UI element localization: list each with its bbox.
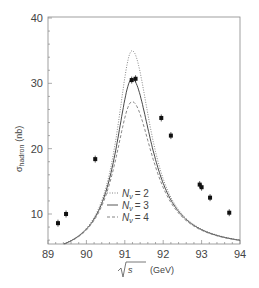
y-axis-ticks [48,18,52,240]
legend: Nν= 2 Nν= 3 Nν= 4 [107,188,149,224]
svg-text:(GeV): (GeV) [150,265,174,275]
x-tick-label: 94 [234,248,246,260]
svg-text:s: s [128,265,133,275]
x-axis-tick-labels: 899091929394 [42,248,246,260]
x-tick-label: 90 [80,248,92,260]
y-tick-label: 20 [31,143,43,155]
legend-label-nv4: Nν= 4 [122,212,149,224]
x-axis-label: s (GeV) [118,262,174,277]
x-axis-ticks [48,240,240,244]
x-tick-label: 92 [157,248,169,260]
y-axis-label: σhadron(nb) [14,126,25,172]
curve-dotted [63,51,240,244]
y-tick-label: 40 [31,12,43,24]
legend-item-nv4: Nν= 4 [107,212,149,224]
y-tick-label: 10 [31,208,43,220]
y-tick-label: 30 [31,77,43,89]
x-tick-label: 91 [119,248,131,260]
svg-text:σhadron(nb): σhadron(nb) [14,126,25,172]
legend-item-nv2: Nν= 2 [107,188,149,200]
legend-label-nv2: Nν= 2 [122,188,149,200]
cross-section-chart: 899091929394 10203040 Nν= 2 Nν= 3 Nν= 4 … [0,0,259,288]
curves [63,51,240,244]
y-axis-tick-labels: 10203040 [31,12,43,220]
legend-item-nv3: Nν= 3 [107,200,149,212]
curve-solid [64,79,240,244]
x-tick-label: 93 [195,248,207,260]
legend-label-nv3: Nν= 3 [122,200,149,212]
x-tick-label: 89 [42,248,54,260]
